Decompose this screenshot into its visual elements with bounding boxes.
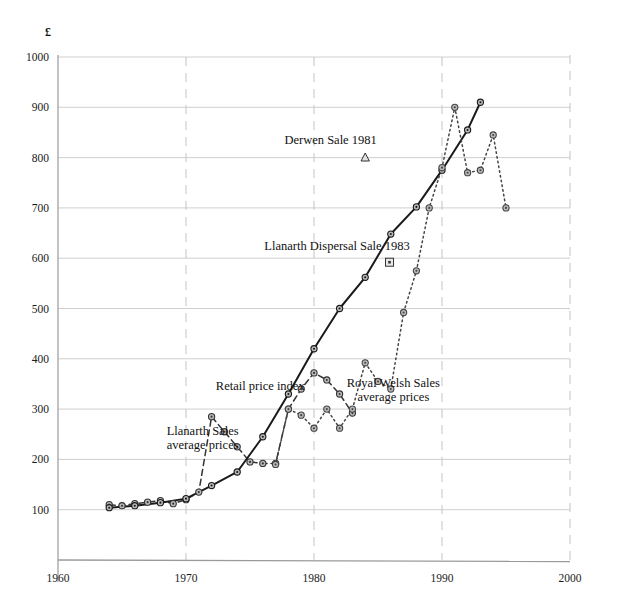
- series-label-2: Royal Welsh Sales: [347, 376, 440, 390]
- data-point-center: [211, 416, 213, 418]
- x-tick-label: 1970: [175, 572, 198, 584]
- y-tick-label: 900: [32, 101, 50, 113]
- data-point-center: [313, 348, 315, 350]
- annotation-marker-square-center-llanarth-dispersal-sale: [388, 261, 391, 264]
- annotation-label-llanarth-dispersal-sale: Llanarth Dispersal Sale 1983: [264, 239, 409, 253]
- x-tick-label: 1980: [303, 572, 326, 584]
- data-point-center: [454, 106, 456, 108]
- y-tick-label: 300: [32, 403, 50, 415]
- data-point-center: [275, 463, 277, 465]
- x-tick-label: 2000: [559, 572, 582, 584]
- annotation-label-derwen-sale: Derwen Sale 1981: [284, 133, 376, 147]
- data-point-center: [121, 505, 123, 507]
- data-point-center: [467, 172, 469, 174]
- data-point-center: [339, 427, 341, 429]
- y-tick-label: 200: [32, 453, 50, 465]
- y-tick-label: 400: [32, 353, 50, 365]
- series-label-1: Retail price index: [216, 379, 306, 393]
- data-point-center: [326, 408, 328, 410]
- data-point-center: [172, 503, 174, 505]
- data-point-center: [287, 408, 289, 410]
- chart-background: [0, 0, 620, 613]
- series-label-0: Llanarth Sales: [167, 424, 239, 438]
- data-point-center: [351, 408, 353, 410]
- data-point-center: [134, 505, 136, 507]
- y-tick-label: 1000: [26, 51, 49, 63]
- data-point-center: [326, 379, 328, 381]
- y-tick-label: 500: [32, 303, 50, 315]
- chart-canvas: 1002003004005006007008009001000 19601970…: [0, 0, 620, 613]
- data-point-center: [428, 207, 430, 209]
- data-point-center: [313, 427, 315, 429]
- data-point-center: [390, 233, 392, 235]
- data-point-center: [185, 498, 187, 500]
- y-tick-label: 600: [32, 252, 50, 264]
- data-point-center: [262, 462, 264, 464]
- y-tick-label: 800: [32, 152, 50, 164]
- y-tick-label: 700: [32, 202, 50, 214]
- data-point-center: [300, 414, 302, 416]
- data-point-center: [159, 502, 161, 504]
- data-point-center: [249, 461, 251, 463]
- data-point-center: [415, 206, 417, 208]
- data-point-center: [108, 507, 110, 509]
- data-point-center: [403, 311, 405, 313]
- x-tick-label: 1960: [47, 572, 70, 584]
- data-point-center: [441, 167, 443, 169]
- data-point-center: [492, 134, 494, 136]
- data-point-center: [211, 485, 213, 487]
- data-point-center: [505, 207, 507, 209]
- data-point-center: [147, 501, 149, 503]
- data-point-center: [262, 436, 264, 438]
- x-tick-label: 1990: [431, 572, 454, 584]
- data-point-center: [467, 129, 469, 131]
- data-point-center: [313, 372, 315, 374]
- data-point-center: [364, 362, 366, 364]
- data-point-center: [339, 307, 341, 309]
- data-point-center: [339, 393, 341, 395]
- price-trend-chart: 1002003004005006007008009001000 19601970…: [0, 0, 620, 613]
- data-point-center: [236, 471, 238, 473]
- data-point-center: [479, 169, 481, 171]
- y-tick-label: 100: [32, 504, 50, 516]
- data-point-center: [364, 276, 366, 278]
- data-point-center: [415, 270, 417, 272]
- series-label-0: average prices: [167, 438, 239, 452]
- data-point-center: [479, 101, 481, 103]
- y-axis-title: £: [45, 25, 51, 39]
- data-point-center: [198, 491, 200, 493]
- series-label-2: average prices: [357, 390, 429, 404]
